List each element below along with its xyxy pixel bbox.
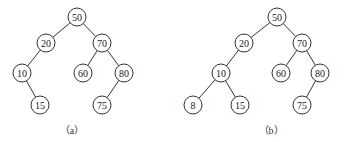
svg-text:15: 15 [35, 100, 45, 111]
svg-text:15: 15 [235, 100, 245, 111]
tree-node-10: 10 [13, 64, 31, 82]
tree-node-20: 20 [235, 34, 253, 52]
edge-70-60 [286, 50, 297, 65]
edge-50-70 [83, 23, 96, 36]
edge-50-70 [283, 23, 296, 36]
edge-50-20 [53, 23, 70, 37]
edge-10-8 [199, 80, 215, 98]
edge-70-80 [107, 50, 118, 65]
tree-node-50: 50 [68, 8, 86, 26]
edge-10-15 [26, 81, 35, 97]
edge-70-60 [88, 51, 97, 66]
svg-text:70: 70 [297, 38, 307, 49]
svg-text:70: 70 [97, 38, 107, 49]
svg-text:60: 60 [276, 68, 286, 79]
edge-80-75 [306, 81, 315, 97]
tree-node-70: 70 [93, 34, 111, 52]
tree-a: 5020701060801575 [13, 8, 133, 114]
tree-node-15: 15 [31, 96, 49, 114]
svg-text:20: 20 [41, 38, 51, 49]
tree-node-50: 50 [268, 8, 286, 26]
tree-node-75: 75 [93, 96, 111, 114]
edge-20-10 [226, 50, 238, 66]
tree-b: 50207010608081575 [184, 8, 329, 114]
tree-node-60: 60 [74, 64, 92, 82]
edge-50-20 [251, 23, 270, 38]
caption-a: （a） [60, 122, 84, 137]
tree-node-60: 60 [272, 64, 290, 82]
tree-node-80: 80 [115, 64, 133, 82]
tree-node-75: 75 [293, 96, 311, 114]
binary-tree-diagrams: 502070106080157550207010608081575 [0, 0, 344, 142]
edge-10-15 [226, 81, 236, 98]
edge-20-10 [28, 50, 41, 66]
tree-node-10: 10 [212, 64, 230, 82]
svg-text:10: 10 [216, 68, 226, 79]
svg-text:50: 50 [72, 12, 82, 23]
tree-node-20: 20 [37, 34, 55, 52]
edge-80-75 [107, 80, 119, 97]
caption-b: （b） [259, 122, 284, 137]
tree-node-8: 8 [184, 96, 202, 114]
svg-text:50: 50 [272, 12, 282, 23]
svg-text:20: 20 [239, 38, 249, 49]
tree-node-15: 15 [231, 96, 249, 114]
svg-text:80: 80 [315, 68, 325, 79]
svg-text:10: 10 [17, 68, 27, 79]
tree-node-70: 70 [293, 34, 311, 52]
edge-70-80 [307, 51, 316, 66]
svg-text:80: 80 [119, 68, 129, 79]
svg-text:8: 8 [191, 100, 196, 111]
tree-node-80: 80 [311, 64, 329, 82]
svg-text:60: 60 [78, 68, 88, 79]
svg-text:75: 75 [97, 100, 107, 111]
svg-text:75: 75 [297, 100, 307, 111]
